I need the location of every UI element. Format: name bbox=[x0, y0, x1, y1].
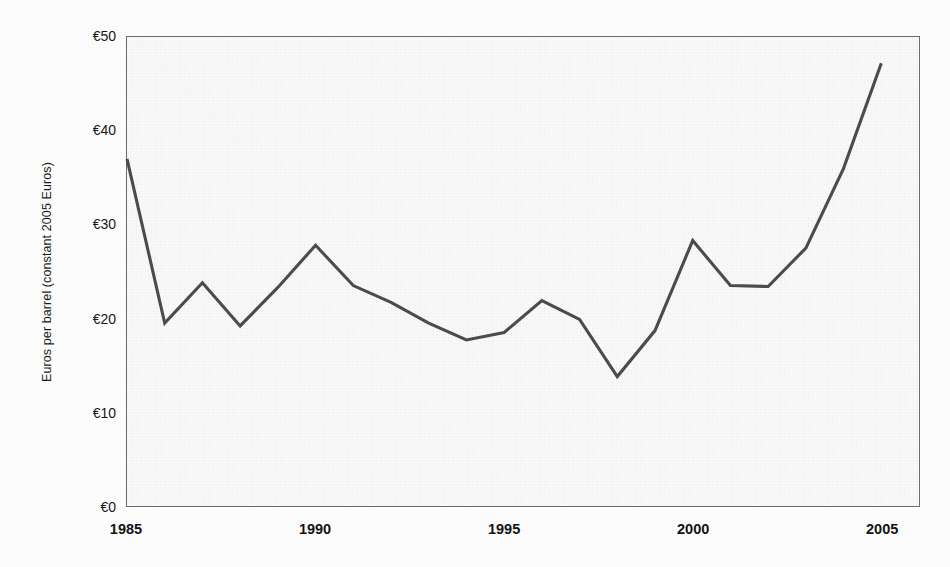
x-tick-label: 1990 bbox=[299, 521, 331, 537]
y-tick-label: €10 bbox=[52, 405, 116, 421]
series-polyline bbox=[127, 63, 881, 376]
x-tick-label: 1985 bbox=[110, 521, 142, 537]
x-tick-label: 2005 bbox=[866, 521, 898, 537]
y-tick-label: €30 bbox=[52, 216, 116, 232]
y-tick-label: €0 bbox=[52, 499, 116, 515]
y-tick-label: €20 bbox=[52, 311, 116, 327]
data-series-line bbox=[127, 37, 919, 506]
y-tick-label: €50 bbox=[52, 28, 116, 44]
x-tick-label: 1995 bbox=[488, 521, 520, 537]
chart-figure: Euros per barrel (constant 2005 Euros) €… bbox=[0, 0, 950, 567]
y-axis-tick-labels: €0€10€20€30€40€50 bbox=[52, 0, 116, 567]
y-tick-label: €40 bbox=[52, 122, 116, 138]
x-tick-label: 2000 bbox=[677, 521, 709, 537]
plot-area bbox=[126, 36, 920, 507]
